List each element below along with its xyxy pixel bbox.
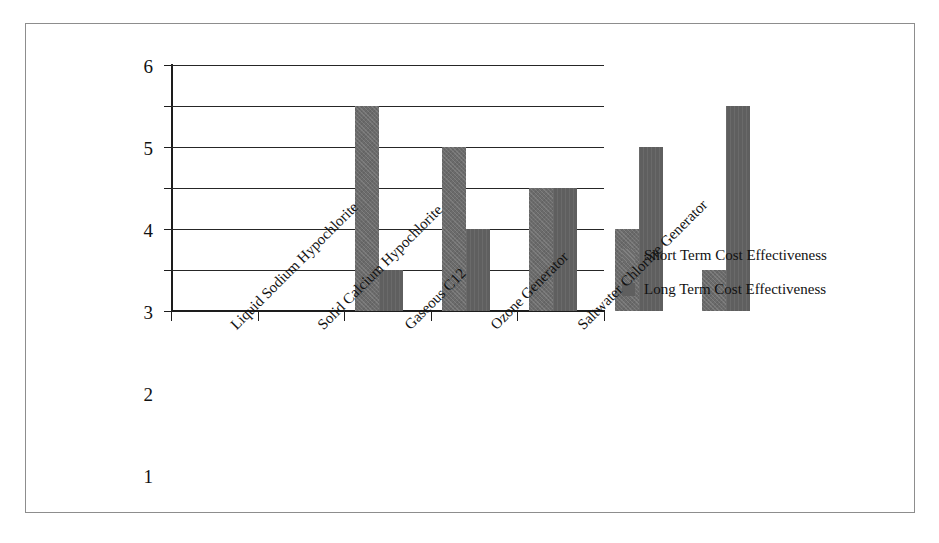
x-axis-end-tick-mark [171, 311, 172, 321]
bar-long-term[interactable] [379, 270, 403, 311]
y-axis-tick-label: 1 [144, 467, 154, 486]
x-axis-category-label: Ozone Generator [488, 322, 499, 333]
y-axis-tick-mark: 1 [164, 270, 171, 271]
gridline [171, 65, 604, 66]
x-axis-category-label: Liquid Sodium Hypochlorite [228, 322, 239, 333]
bar-long-term[interactable] [553, 188, 577, 311]
y-axis-tick-label: 6 [144, 57, 154, 76]
y-axis-tick-label: 4 [144, 221, 154, 240]
y-axis-tick-label: 5 [144, 139, 154, 158]
y-axis-tick-mark: 0 [164, 311, 171, 312]
legend-label-long-term: Long Term Cost Effectiveness [644, 282, 826, 297]
y-axis-tick-mark: 3 [164, 188, 171, 189]
gridline [171, 147, 604, 148]
bar-chart-figure: 0123456 Short Term Cost Effectiveness Lo… [0, 0, 939, 543]
y-axis-tick-label: 3 [144, 303, 154, 322]
x-axis-category-label: Saltwater Chlorine Generator [575, 322, 586, 333]
legend-swatch-short-term-icon [622, 249, 635, 262]
bar-long-term[interactable] [466, 229, 490, 311]
x-axis-category-label: Solid Calcium Hypochlorite [315, 322, 326, 333]
gridline [171, 106, 604, 107]
legend-item-long-term[interactable]: Long Term Cost Effectiveness [622, 272, 922, 306]
y-axis-tick-label: 2 [144, 385, 154, 404]
x-axis-category-label: Gaseous C12 [402, 322, 413, 333]
y-axis-tick-mark: 2 [164, 229, 171, 230]
y-axis-tick-mark: 6 [164, 65, 171, 66]
legend-label-short-term: Short Term Cost Effectiveness [644, 248, 827, 263]
y-axis-tick-mark: 4 [164, 147, 171, 148]
y-axis-tick-mark: 5 [164, 106, 171, 107]
x-axis-end-tick-mark [604, 311, 605, 321]
